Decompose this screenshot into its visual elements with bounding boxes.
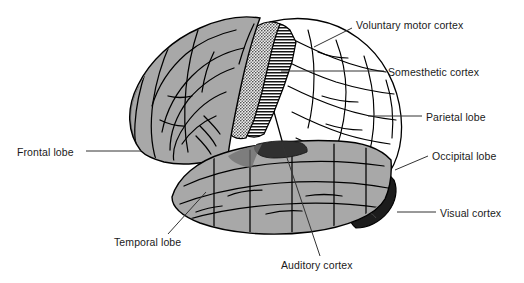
- label-parietal-lobe: Parietal lobe: [426, 111, 486, 123]
- label-temporal-lobe: Temporal lobe: [114, 236, 181, 248]
- label-visual-cortex: Visual cortex: [440, 207, 501, 219]
- brain-diagram-figure: Voluntary motor cortex Somesthetic corte…: [0, 0, 524, 283]
- label-frontal-lobe: Frontal lobe: [17, 146, 74, 158]
- label-auditory-cortex: Auditory cortex: [281, 259, 353, 271]
- leader-occipital-lobe: [395, 156, 428, 170]
- label-occipital-lobe: Occipital lobe: [432, 150, 496, 162]
- brain-illustration: [0, 0, 524, 283]
- label-somesthetic-cortex: Somesthetic cortex: [388, 66, 479, 78]
- label-voluntary-motor-cortex: Voluntary motor cortex: [356, 19, 463, 31]
